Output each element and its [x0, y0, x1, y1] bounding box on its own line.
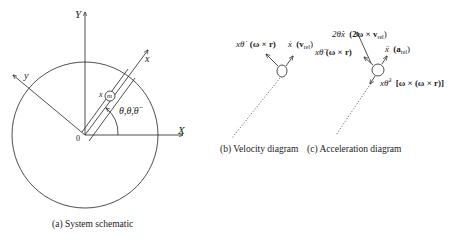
x-axis-label: x	[144, 53, 150, 64]
angle-arc	[106, 108, 118, 135]
omega-cross-r-arrow	[266, 54, 278, 66]
mass-circle	[372, 64, 384, 76]
mass-x-label: x	[98, 90, 103, 99]
velocity-tangential-label: xθ̇ (ω × r)	[235, 39, 276, 49]
velocity-diagram: xθ̇ (ω × r) ẋ (vrel) (b) Velocity diagra…	[220, 39, 313, 155]
diagram-canvas: Y X y x 0 x m θ,θ̇,θ̈ (a) System schemat…	[0, 0, 459, 240]
radius-dotted-line	[336, 86, 369, 135]
mass-label: m	[107, 92, 112, 100]
centripetal-arrow	[370, 76, 375, 84]
angle-label: θ,θ̇,θ̈	[119, 105, 143, 116]
v-rel-arrow	[286, 56, 293, 66]
X-axis-label: X	[177, 124, 186, 136]
acceleration-diagram: 2θ̇ẋ (2ω × vrel) xθ̈ (ω × r) ẍ (arel) xθ…	[307, 29, 444, 155]
centripetal-label: xθ̇2 [ω × (ω × r)]	[379, 74, 444, 88]
origin-label: 0	[76, 134, 80, 143]
slot-rail-left	[82, 69, 128, 132]
relative-accel-label: ẍ (arel)	[384, 44, 410, 55]
y-axis-label: y	[23, 70, 29, 81]
caption-b: (b) Velocity diagram	[220, 144, 299, 155]
rel-accel-arrow	[382, 56, 387, 64]
caption-a: (a) System schematic	[52, 219, 133, 230]
velocity-relative-label: ẋ (vrel)	[287, 39, 313, 50]
tangential-accel-label: xθ̈ (ω × r)	[314, 47, 352, 57]
y-rotated-axis-arrow	[13, 75, 85, 135]
radius-dotted-line	[232, 78, 280, 138]
coriolis-label: 2θ̇ẋ (2ω × vrel)	[332, 29, 387, 40]
system-schematic: Y X y x 0 x m θ,θ̇,θ̈ (a) System schemat…	[12, 8, 186, 230]
Y-axis-label: Y	[75, 8, 83, 20]
caption-c: (c) Acceleration diagram	[307, 144, 402, 155]
mass-circle	[277, 65, 287, 77]
